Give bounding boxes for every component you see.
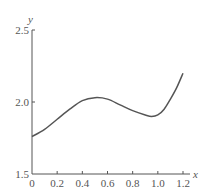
line-chart: 00.20.40.60.81.01.2 1.52.02.5 x y — [0, 0, 210, 194]
x-tick-label: 1.2 — [176, 177, 190, 189]
y-tick-label: 2.0 — [15, 96, 29, 108]
data-curve — [32, 73, 183, 136]
y-tick-label: 2.5 — [15, 24, 29, 36]
x-tick-label: 0.8 — [126, 177, 140, 189]
x-tick-label: 0.6 — [101, 177, 115, 189]
x-axis-label: x — [192, 168, 198, 180]
x-tick-label: 0.2 — [50, 177, 64, 189]
y-axis-label: y — [27, 13, 33, 25]
x-tick-label: 1.0 — [151, 177, 165, 189]
x-tick-label: 0 — [29, 177, 35, 189]
y-tick-label: 1.5 — [15, 168, 29, 180]
x-tick-label: 0.4 — [75, 177, 89, 189]
